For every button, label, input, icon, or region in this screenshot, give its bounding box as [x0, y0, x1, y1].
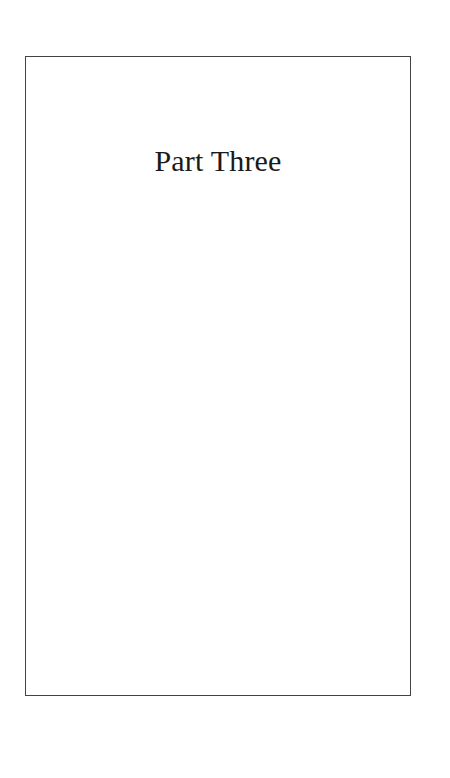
part-title: Part Three: [26, 143, 410, 179]
page-frame: Part Three: [25, 56, 411, 696]
